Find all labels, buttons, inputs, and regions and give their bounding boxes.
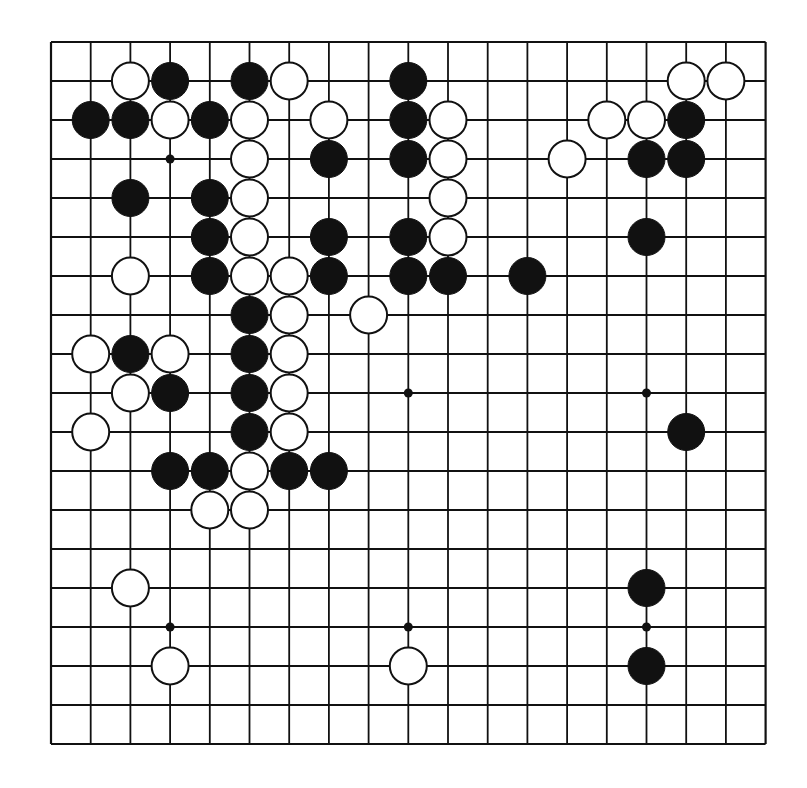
black-stone xyxy=(310,219,347,256)
black-stone xyxy=(191,453,228,490)
white-stone xyxy=(390,648,427,685)
black-stone xyxy=(509,258,546,295)
black-stone xyxy=(628,570,665,607)
white-stone xyxy=(152,102,189,139)
black-stone xyxy=(628,219,665,256)
white-stone xyxy=(112,570,149,607)
black-stone xyxy=(72,102,109,139)
white-stone xyxy=(231,141,268,178)
star-point xyxy=(166,623,175,632)
white-stone xyxy=(231,258,268,295)
black-stone xyxy=(430,258,467,295)
black-stone xyxy=(271,453,308,490)
black-stone xyxy=(152,375,189,412)
black-stone xyxy=(231,414,268,451)
white-stone xyxy=(72,336,109,373)
white-stone xyxy=(271,63,308,100)
black-stone xyxy=(628,141,665,178)
white-stone xyxy=(271,258,308,295)
star-point xyxy=(642,389,651,398)
star-point xyxy=(166,155,175,164)
white-stone xyxy=(430,180,467,217)
black-stone xyxy=(310,258,347,295)
white-stone xyxy=(668,63,705,100)
black-stone xyxy=(390,219,427,256)
white-stone xyxy=(707,63,744,100)
white-stone xyxy=(231,492,268,529)
white-stone xyxy=(350,297,387,334)
black-stone xyxy=(112,336,149,373)
white-stone xyxy=(152,648,189,685)
black-stone xyxy=(310,453,347,490)
white-stone xyxy=(231,180,268,217)
black-stone xyxy=(191,219,228,256)
black-stone xyxy=(231,375,268,412)
black-stone xyxy=(668,141,705,178)
black-stone xyxy=(390,258,427,295)
black-stone xyxy=(231,336,268,373)
white-stone xyxy=(231,102,268,139)
white-stone xyxy=(191,492,228,529)
black-stone xyxy=(191,258,228,295)
black-stone xyxy=(390,63,427,100)
black-stone xyxy=(191,180,228,217)
black-stone xyxy=(668,414,705,451)
star-point xyxy=(404,623,413,632)
black-stone xyxy=(231,297,268,334)
black-stone xyxy=(152,63,189,100)
white-stone xyxy=(271,375,308,412)
black-stone xyxy=(390,141,427,178)
black-stone xyxy=(231,63,268,100)
go-board-diagram xyxy=(0,0,807,788)
black-stone xyxy=(668,102,705,139)
black-stone xyxy=(112,102,149,139)
white-stone xyxy=(112,375,149,412)
star-point xyxy=(404,389,413,398)
white-stone xyxy=(430,219,467,256)
black-stone xyxy=(310,141,347,178)
white-stone xyxy=(271,414,308,451)
black-stone xyxy=(628,648,665,685)
star-point xyxy=(642,623,651,632)
white-stone xyxy=(112,258,149,295)
black-stone xyxy=(152,453,189,490)
white-stone xyxy=(430,102,467,139)
black-stone xyxy=(112,180,149,217)
white-stone xyxy=(152,336,189,373)
white-stone xyxy=(72,414,109,451)
white-stone xyxy=(549,141,586,178)
white-stone xyxy=(430,141,467,178)
white-stone xyxy=(310,102,347,139)
black-stone xyxy=(191,102,228,139)
white-stone xyxy=(588,102,625,139)
white-stone xyxy=(271,336,308,373)
black-stone xyxy=(390,102,427,139)
white-stone xyxy=(231,219,268,256)
white-stone xyxy=(112,63,149,100)
white-stone xyxy=(271,297,308,334)
white-stone xyxy=(628,102,665,139)
go-board xyxy=(0,0,807,788)
white-stone xyxy=(231,453,268,490)
